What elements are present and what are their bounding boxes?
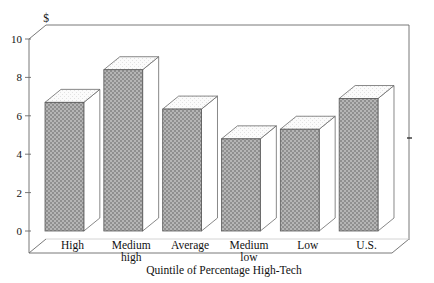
x-category-labels: HighMediumhighAverageMediumlowLowU.S. xyxy=(61,239,377,264)
chart-figure: 0 2 4 6 8 10 $ HighMediumhighAverageMedi… xyxy=(0,0,434,283)
x-category-label-1: high xyxy=(121,251,142,264)
y-tick-label-2: 2 xyxy=(17,187,23,199)
x-category-label-0: High xyxy=(61,239,84,252)
y-tick-label-4: 4 xyxy=(17,148,23,160)
bar-chart-svg: 0 2 4 6 8 10 $ HighMediumhighAverageMedi… xyxy=(0,0,434,283)
x-axis-title: Quintile of Percentage High-Tech xyxy=(146,264,302,277)
bar-1 xyxy=(104,57,159,231)
x-category-label-3: Medium xyxy=(229,239,268,251)
x-category-label-5: U.S. xyxy=(356,239,377,251)
x-category-label-3: low xyxy=(240,251,258,263)
y-tick-label-0: 0 xyxy=(17,225,23,237)
x-category-label-4: Low xyxy=(297,239,319,251)
bar-3 xyxy=(222,126,277,231)
y-tick-label-6: 6 xyxy=(17,110,23,122)
bar-2 xyxy=(163,96,218,231)
y-tick-label-8: 8 xyxy=(17,71,23,83)
y-tick-label-10: 10 xyxy=(11,33,23,45)
bar-5 xyxy=(339,86,394,231)
x-category-label-1: Medium xyxy=(112,239,151,251)
y-tick-labels: 0 2 4 6 8 10 xyxy=(11,33,23,237)
y-axis-ticks xyxy=(25,39,31,231)
bar-0 xyxy=(45,89,100,231)
bar-4 xyxy=(280,116,335,231)
x-category-label-2: Average xyxy=(171,239,209,252)
y-axis-unit-label: $ xyxy=(43,12,49,24)
bars-layer xyxy=(45,57,394,231)
